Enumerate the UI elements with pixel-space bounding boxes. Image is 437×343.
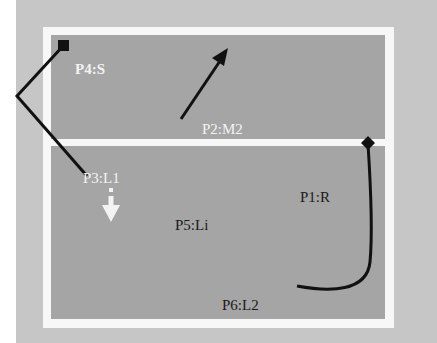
diamond-marker-icon bbox=[361, 136, 375, 150]
label-p5: P5:Li bbox=[175, 218, 208, 233]
path-p1 bbox=[297, 136, 375, 289]
path-p2 bbox=[181, 48, 228, 119]
label-p6: P6:L2 bbox=[222, 298, 259, 313]
label-p2: P2:M2 bbox=[202, 122, 243, 137]
label-p1: P1:R bbox=[300, 190, 330, 205]
path-p3 bbox=[102, 188, 120, 222]
path-overlay bbox=[0, 0, 437, 343]
square-marker-icon bbox=[58, 40, 69, 51]
label-p4: P4:S bbox=[75, 62, 105, 77]
label-p3: P3:L1 bbox=[83, 171, 120, 186]
arrowhead-icon bbox=[212, 48, 228, 66]
down-arrow-icon bbox=[102, 205, 120, 222]
